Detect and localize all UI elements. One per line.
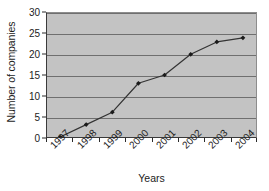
x-axis-title: Years <box>46 172 257 184</box>
y-axis-title-text: Number of companies <box>5 21 17 122</box>
data-point-marker <box>241 35 246 40</box>
x-axis-tick-labels: 19971998199920002001200220032004 <box>46 143 257 173</box>
y-axis-tick-labels: 051015202530 <box>22 12 42 138</box>
y-axis-tick-label: 10 <box>29 91 40 102</box>
x-axis-tick-mark <box>231 138 232 142</box>
x-axis-tick-mark <box>46 138 47 142</box>
x-axis-tick-mark <box>72 138 73 142</box>
y-axis-tick-label: 0 <box>34 133 40 144</box>
series-line-companies <box>47 13 256 137</box>
x-axis-tick-mark <box>256 138 257 142</box>
series-polyline <box>60 38 243 137</box>
x-axis-tick-mark <box>152 138 153 142</box>
y-axis-tick-label: 30 <box>29 7 40 18</box>
line-chart-figure: Number of companies 051015202530 1997199… <box>0 0 269 191</box>
y-axis-tick-label: 25 <box>29 28 40 39</box>
data-point-marker <box>214 40 219 45</box>
y-axis-title: Number of companies <box>0 0 22 143</box>
x-axis-tick-mark <box>99 138 100 142</box>
x-axis-tick-mark <box>204 138 205 142</box>
plot-area <box>46 12 257 138</box>
data-point-marker <box>84 122 89 127</box>
y-axis-tick-label: 15 <box>29 70 40 81</box>
x-axis-tick-mark <box>125 138 126 142</box>
x-axis-tick-mark <box>178 138 179 142</box>
y-axis-tick-label: 5 <box>34 112 40 123</box>
y-axis-tick-label: 20 <box>29 49 40 60</box>
